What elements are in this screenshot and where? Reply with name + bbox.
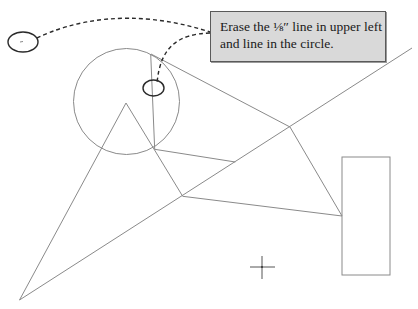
long-diagonal-line[interactable]	[20, 48, 413, 300]
crosshair-icon	[250, 256, 275, 279]
leader-line-circle	[157, 33, 210, 84]
callout-line-1: Erase the ⅛″ line in upper left	[220, 18, 377, 35]
tangent-line[interactable]	[151, 54, 290, 127]
connector-line-c[interactable]	[290, 127, 342, 216]
connector-line-b[interactable]	[183, 196, 342, 216]
tiny-line-upper-left[interactable]	[20, 42, 23, 43]
marker-ellipse-in-circle	[143, 80, 164, 96]
callout-note: Erase the ⅛″ line in upper left and line…	[210, 11, 386, 62]
leader-line-upper-left	[37, 18, 210, 38]
triangle-right-edge[interactable]	[126, 103, 183, 196]
construction-circle[interactable]	[74, 49, 180, 155]
connector-line-a[interactable]	[155, 149, 236, 162]
triangle-left-edge[interactable]	[20, 103, 127, 300]
callout-line-2: and line in the circle.	[220, 35, 377, 52]
line-in-circle[interactable]	[151, 54, 155, 149]
rectangle-shape[interactable]	[342, 157, 390, 275]
